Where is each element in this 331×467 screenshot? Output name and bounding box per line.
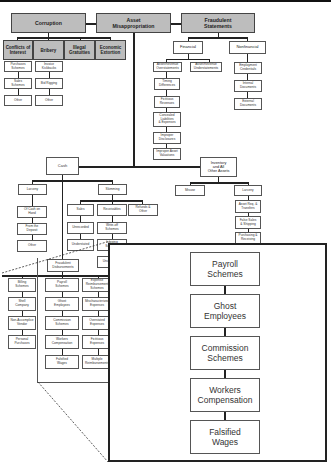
callout-falsified-wages: Falsified Wages bbox=[190, 420, 260, 454]
callout-commission-schemes: Commission Schemes bbox=[190, 336, 260, 370]
magnified-callout: Payroll Schemes Ghost Employees Commissi… bbox=[108, 243, 327, 462]
connector bbox=[224, 328, 226, 336]
callout-workers-compensation: Workers Compensation bbox=[190, 378, 260, 412]
connector bbox=[224, 370, 226, 378]
callout-ghost-employees: Ghost Employees bbox=[190, 294, 260, 328]
connector bbox=[224, 412, 226, 420]
connector bbox=[224, 286, 226, 294]
callout-payroll-schemes: Payroll Schemes bbox=[190, 252, 260, 286]
